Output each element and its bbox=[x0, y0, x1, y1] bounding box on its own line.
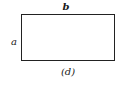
side-label-b: b bbox=[63, 2, 70, 12]
figure-caption: (d) bbox=[61, 67, 75, 77]
rectangle-shape bbox=[21, 14, 115, 61]
side-label-a: a bbox=[11, 37, 17, 47]
